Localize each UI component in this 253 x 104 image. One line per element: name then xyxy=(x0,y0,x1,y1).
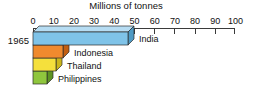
bar-label-philippines: Philippines xyxy=(58,74,102,84)
tick-label-10: 10 xyxy=(49,16,59,26)
tick-label-0: 0 xyxy=(30,16,35,26)
tick-label-50: 50 xyxy=(129,16,139,26)
bar-indonesia-face xyxy=(33,45,63,58)
bar-label-indonesia: Indonesia xyxy=(74,48,113,58)
bar-chart: Millions of tonnes 0 10 20 30 40 50 60 xyxy=(0,0,253,104)
tick-label-100: 100 xyxy=(228,16,243,26)
tick-label-90: 90 xyxy=(210,16,220,26)
tick-label-30: 30 xyxy=(89,16,99,26)
bar-thailand-face xyxy=(33,58,56,71)
x-axis-tick-labels: 0 10 20 30 40 50 60 70 80 90 100 xyxy=(30,16,243,26)
bar-india[interactable] xyxy=(33,26,134,45)
tick-label-40: 40 xyxy=(109,16,119,26)
chart-container: Millions of tonnes 0 10 20 30 40 50 60 xyxy=(0,0,253,104)
tick-label-80: 80 xyxy=(190,16,200,26)
tick-label-70: 70 xyxy=(170,16,180,26)
bar-india-face xyxy=(33,32,128,45)
tick-label-20: 20 xyxy=(69,16,79,26)
bar-philippines-face xyxy=(33,71,47,84)
bar-label-thailand: Thailand xyxy=(67,61,102,71)
chart-title: Millions of tonnes xyxy=(89,0,163,11)
bar-label-india: India xyxy=(139,34,159,44)
tick-label-60: 60 xyxy=(150,16,160,26)
row-label-1965: 1965 xyxy=(8,35,29,46)
bar-india-top xyxy=(33,26,134,32)
